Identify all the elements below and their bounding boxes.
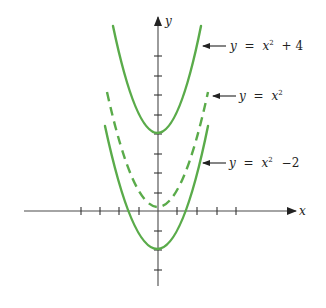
y-axis-label: y [164, 14, 172, 28]
x-axis: x [24, 204, 306, 218]
callout-x2: y = x2 [213, 89, 283, 103]
curve-label: y = x2 + 4 [229, 34, 303, 53]
callout-x2-plus-4: y = x2 + 4 [203, 34, 303, 53]
callout-x2-minus-2: y = x2 −2 [203, 151, 299, 170]
curve-label: y = x2 [238, 89, 283, 103]
curve-label: y = x2 −2 [228, 151, 299, 170]
parabola-shift-graph: x y y = x2 + 4 [0, 0, 326, 308]
x-axis-label: x [299, 204, 306, 218]
y-axis: y [154, 14, 172, 286]
parabola-x2-plus-4 [113, 26, 201, 133]
